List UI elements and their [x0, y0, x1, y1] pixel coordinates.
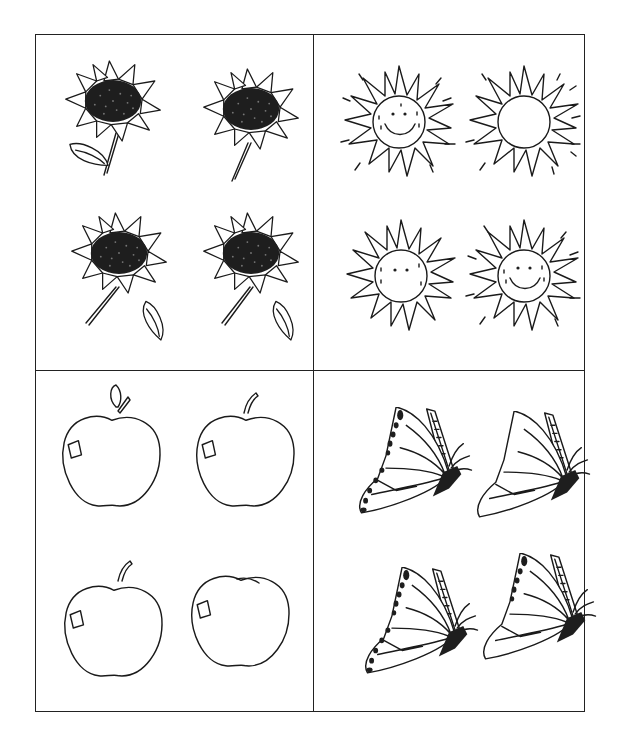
- quadrant-butterflies: [314, 371, 584, 711]
- butterfly-2-plain: [472, 411, 597, 523]
- apple-3: [56, 551, 176, 686]
- sun-3-no-mouth: [336, 211, 466, 341]
- sunflower-2: [196, 63, 306, 183]
- apple-2: [188, 385, 308, 520]
- sunflower-3: [64, 207, 184, 342]
- butterfly-4-top-spots: [478, 553, 603, 665]
- sunflower-4: [196, 207, 316, 342]
- sun-4-smiling: [459, 211, 589, 341]
- apple-4-no-stem: [181, 557, 301, 687]
- quadrant-suns: [314, 35, 584, 371]
- quadrant-apples: [36, 371, 314, 711]
- worksheet-frame: [35, 34, 585, 712]
- apple-1-leaf: [54, 385, 174, 520]
- sunflower-1: [58, 55, 168, 185]
- butterfly-1-spotted: [354, 407, 479, 519]
- sun-1-smiling: [334, 57, 464, 187]
- butterfly-3-spotted: [360, 567, 485, 679]
- sun-2-blank: [459, 57, 589, 187]
- quadrant-sunflowers: [36, 35, 314, 371]
